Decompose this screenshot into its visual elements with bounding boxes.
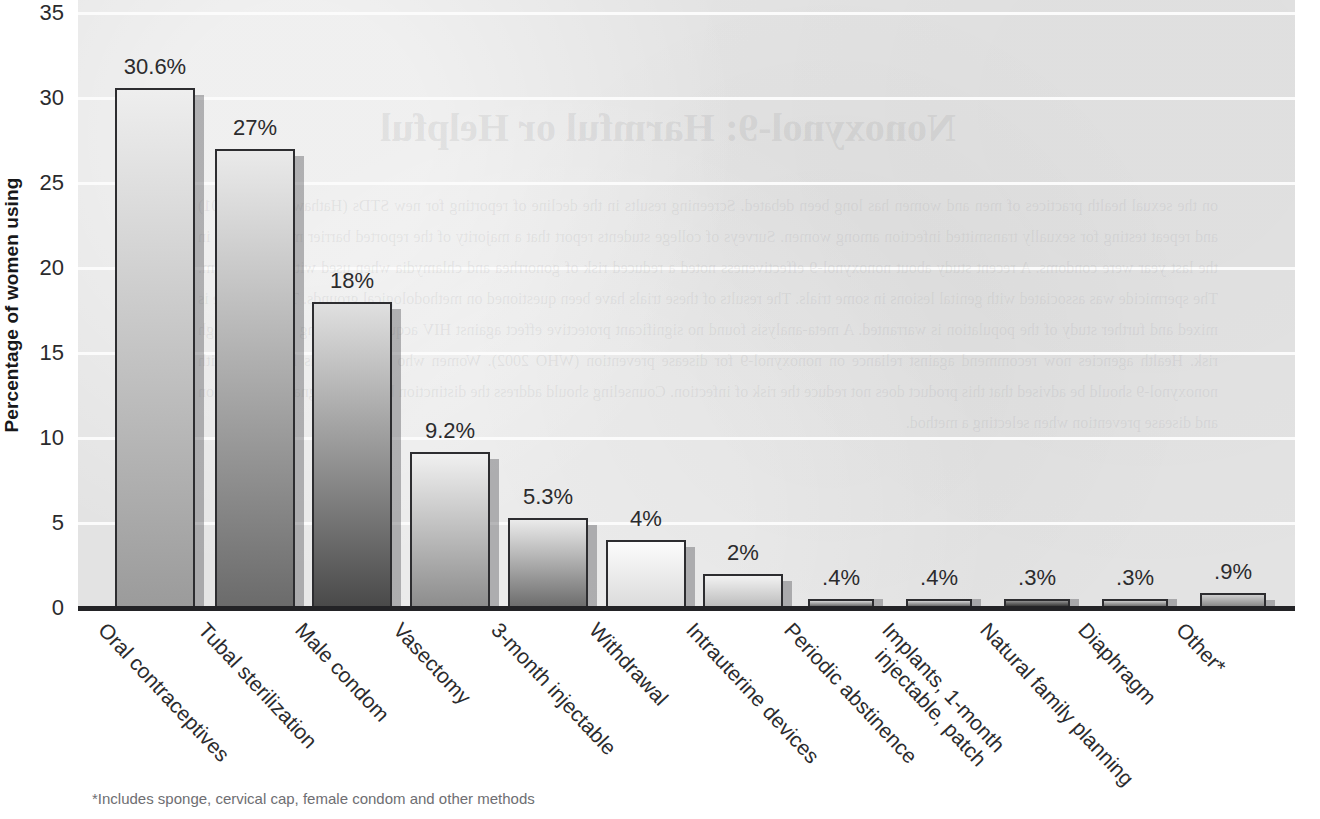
x-axis-label[interactable]: Male condom bbox=[290, 618, 394, 727]
bar[interactable] bbox=[115, 88, 195, 608]
y-tick-label: 25 bbox=[40, 170, 64, 196]
y-tick-label: 15 bbox=[40, 340, 64, 366]
x-axis-label[interactable]: Vasectomy bbox=[388, 618, 475, 709]
bar[interactable] bbox=[703, 574, 783, 608]
y-tick-label: 35 bbox=[40, 0, 64, 26]
gridline bbox=[78, 97, 1295, 100]
y-tick-label: 20 bbox=[40, 255, 64, 281]
bar[interactable] bbox=[508, 518, 588, 608]
x-axis-label[interactable]: Diaphragm bbox=[1073, 618, 1161, 709]
y-axis-tick-labels: 05101520253035 bbox=[22, 0, 72, 620]
plot-area: Nonoxynol-9: Harmful or Helpful on the s… bbox=[78, 0, 1295, 608]
footnote: *Includes sponge, cervical cap, female c… bbox=[92, 790, 535, 807]
bar[interactable] bbox=[606, 540, 686, 608]
bar[interactable] bbox=[312, 302, 392, 608]
bar[interactable] bbox=[215, 149, 295, 608]
bar-value-label: .9% bbox=[1173, 559, 1293, 585]
y-tick-label: 30 bbox=[40, 85, 64, 111]
bar-value-label: 30.6% bbox=[95, 54, 215, 80]
x-axis-label[interactable]: Other* bbox=[1171, 618, 1230, 679]
x-axis-label-line: Other* bbox=[1172, 618, 1230, 678]
y-axis-title-label: Percentage of women using bbox=[1, 178, 23, 433]
bar-value-label: 4% bbox=[586, 506, 706, 532]
x-axis-label-line: Vasectomy bbox=[389, 618, 476, 709]
bar-value-label: 27% bbox=[195, 115, 315, 141]
x-axis-label[interactable]: Withdrawal bbox=[584, 618, 672, 710]
bleed-through-title: Nonoxynol-9: Harmful or Helpful bbox=[318, 104, 1018, 151]
x-axis-label-line: Male condom bbox=[291, 618, 394, 726]
contraceptive-use-bar-chart: Percentage of women using 05101520253035… bbox=[0, 0, 1320, 819]
y-axis-title: Percentage of women using bbox=[0, 0, 24, 610]
bar-value-label: 9.2% bbox=[390, 418, 510, 444]
x-axis-line bbox=[78, 606, 1295, 611]
x-axis-label-line: Diaphragm bbox=[1074, 618, 1161, 709]
bar-value-label: 2% bbox=[683, 540, 803, 566]
y-tick-label: 5 bbox=[52, 510, 64, 536]
gridline bbox=[78, 12, 1295, 15]
bar-value-label: 18% bbox=[292, 268, 412, 294]
x-axis-label-line: Withdrawal bbox=[585, 618, 673, 710]
y-tick-label: 10 bbox=[40, 425, 64, 451]
y-tick-label: 0 bbox=[52, 595, 64, 621]
bar[interactable] bbox=[410, 452, 490, 608]
